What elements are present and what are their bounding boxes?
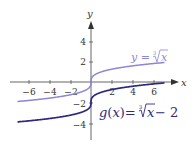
svg-text:3: 3 bbox=[139, 104, 142, 110]
y-tick-label: −4 bbox=[73, 120, 87, 130]
x-axis-label: x bbox=[181, 77, 187, 88]
x-tick-labels: −6 −4 −2 2 4 6 bbox=[22, 87, 157, 97]
svg-text:g(x)=: g(x)= bbox=[99, 105, 136, 120]
x-axis-arrow-icon bbox=[171, 79, 179, 85]
y-tick-label: −2 bbox=[73, 99, 86, 109]
y-axis-arrow-icon bbox=[88, 21, 94, 29]
svg-text:x: x bbox=[147, 105, 155, 120]
svg-text:y =: y = bbox=[130, 51, 150, 64]
lower-curve-label: g(x)= 3 x − 2 bbox=[99, 104, 178, 120]
chart-canvas: x y −6 −4 −2 2 4 6 4 2 −2 −4 y = bbox=[0, 0, 194, 147]
y-tick-labels: 4 2 −2 −4 bbox=[73, 37, 87, 130]
y-tick-label: 2 bbox=[80, 57, 86, 67]
x-tick-label: −6 bbox=[22, 87, 36, 97]
svg-text:x: x bbox=[161, 51, 168, 64]
upper-curve-label: y = 3 x bbox=[130, 50, 168, 64]
svg-text:− 2: − 2 bbox=[155, 105, 178, 120]
x-tick-label: 4 bbox=[130, 87, 136, 97]
x-tick-label: −4 bbox=[43, 87, 57, 97]
y-axis-label: y bbox=[86, 8, 93, 19]
x-tick-label: 6 bbox=[151, 87, 157, 97]
y-tick-label: 4 bbox=[80, 37, 86, 47]
svg-text:3: 3 bbox=[153, 50, 156, 56]
